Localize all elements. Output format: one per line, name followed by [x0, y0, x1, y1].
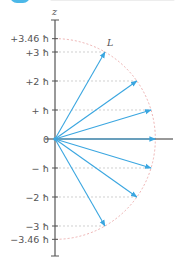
tick-label: +2 ħ: [25, 76, 49, 87]
tick-label: 0: [43, 134, 49, 145]
tick-label: +3.46 ħ: [10, 33, 49, 44]
vectors: [55, 52, 155, 226]
tick-label: −2 ħ: [25, 192, 49, 203]
tick-label: +3 ħ: [25, 47, 49, 58]
angular-momentum-diagram: z +3.46 ħ+3 ħ+2 ħ+ ħ0− ħ−2 ħ−3 ħ−3.46 ħ …: [0, 0, 183, 269]
z-axis-label: z: [51, 6, 58, 17]
tick-label: −3.46 ħ: [10, 234, 49, 245]
origin-dot: [53, 137, 57, 141]
tick-label: + ħ: [31, 105, 49, 116]
vector-label-L: L: [106, 37, 113, 48]
tick-label: − ħ: [31, 163, 49, 174]
tick-label: −3 ħ: [25, 221, 49, 232]
